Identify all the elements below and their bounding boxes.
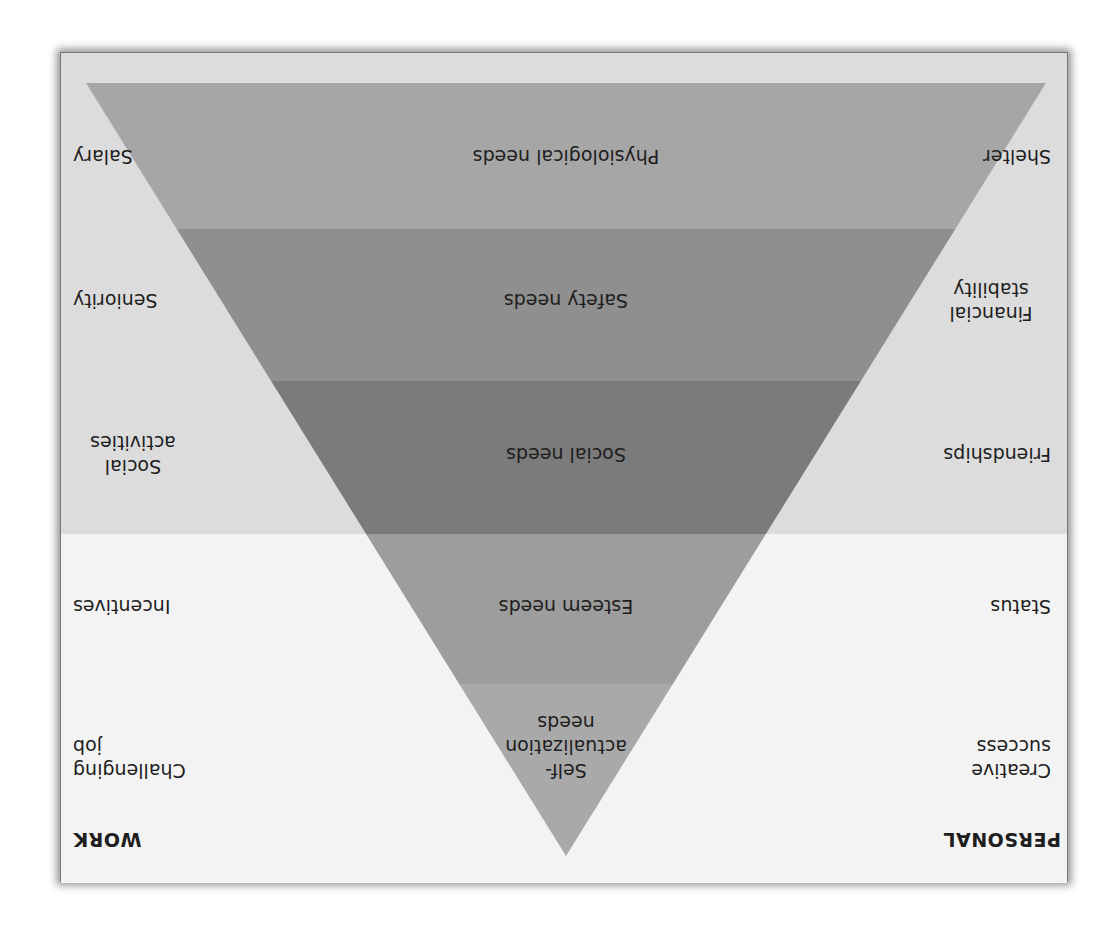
work-item-salary: Salary bbox=[73, 145, 213, 169]
need-label-esteem: Esteem needs bbox=[461, 595, 671, 619]
personal-item-financial-stability: Financial stability bbox=[931, 278, 1051, 326]
personal-item-friendships: Friendships bbox=[911, 443, 1051, 467]
personal-item-shelter: Shelter bbox=[911, 145, 1051, 169]
work-item-incentives: Incentives bbox=[73, 595, 213, 619]
work-column-header: WORK bbox=[73, 828, 213, 852]
personal-item-creative-success: Creative success bbox=[911, 735, 1051, 783]
work-item-social-activities: Social activities bbox=[73, 431, 193, 479]
need-label-self-actualization: Self- actualization needs bbox=[481, 711, 651, 783]
diagram-frame: Physiological needs Safety needs Social … bbox=[60, 52, 1068, 882]
need-label-safety: Safety needs bbox=[461, 289, 671, 313]
need-label-social: Social needs bbox=[461, 443, 671, 467]
work-item-seniority: Seniority bbox=[73, 289, 213, 313]
need-label-physiological: Physiological needs bbox=[431, 145, 701, 169]
personal-item-status: Status bbox=[911, 595, 1051, 619]
personal-column-header: PERSONAL bbox=[911, 828, 1061, 852]
work-item-challenging-job: Challenging job bbox=[73, 735, 213, 783]
